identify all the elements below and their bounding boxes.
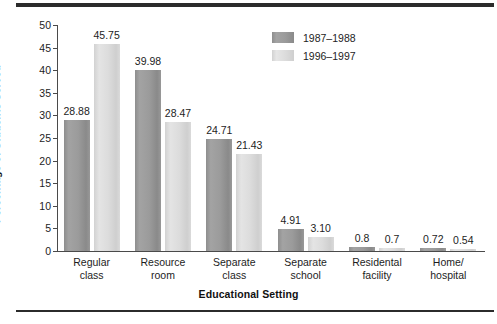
bar-value-label: 3.10 [310, 222, 330, 234]
y-tick-label: 0 [45, 245, 51, 257]
x-category-label: Resource room [127, 256, 198, 281]
y-tick-label: 40 [39, 64, 51, 76]
y-tick-label: 10 [39, 200, 51, 212]
bar-value-label: 0.54 [453, 234, 473, 246]
y-tick-mark [53, 115, 57, 116]
bar-value-label: 0.72 [423, 233, 443, 245]
x-axis-title: Educational Setting [0, 288, 497, 300]
chart-figure: Percentage of Students Served 0510152025… [0, 0, 497, 324]
x-category-label: Home/ hospital [413, 256, 484, 281]
x-category-label: Residental facility [341, 256, 412, 281]
y-tick-mark [53, 25, 57, 26]
bar: 28.88 [64, 120, 90, 251]
y-tick-mark [53, 206, 57, 207]
y-tick-label: 50 [39, 19, 51, 31]
legend-label: 1987–1988 [303, 32, 356, 44]
x-category-label: Regular class [56, 256, 127, 281]
y-tick-label: 5 [45, 222, 51, 234]
legend-item-1996-1997: 1996–1997 [272, 48, 356, 63]
bar: 21.43 [236, 154, 262, 251]
y-tick-label: 15 [39, 177, 51, 189]
bar: 0.7 [379, 248, 405, 251]
bar-value-label: 28.47 [165, 107, 191, 119]
y-tick-label: 30 [39, 109, 51, 121]
legend-label: 1996–1997 [303, 50, 356, 62]
y-tick-mark [53, 70, 57, 71]
bar: 45.75 [94, 44, 120, 251]
y-tick-mark [53, 161, 57, 162]
y-axis-title: Percentage of Students Served [0, 65, 2, 223]
y-tick-mark [53, 93, 57, 94]
y-tick-mark [53, 183, 57, 184]
bar: 28.47 [165, 122, 191, 251]
plot-area: 05101520253035404550 28.8845.7539.9828.4… [57, 25, 485, 251]
y-tick-label: 35 [39, 87, 51, 99]
bar-value-label: 24.71 [206, 124, 232, 136]
bar-value-label: 4.91 [280, 214, 300, 226]
legend-item-1987-1988: 1987–1988 [272, 30, 356, 45]
bar-value-label: 0.8 [355, 232, 370, 244]
legend-swatch-icon-1987-1988 [272, 32, 294, 43]
y-tick-label: 20 [39, 155, 51, 167]
y-tick-mark [53, 228, 57, 229]
bar: 0.8 [349, 247, 375, 251]
bar-value-label: 45.75 [94, 29, 120, 41]
bar: 3.10 [308, 237, 334, 251]
bar: 0.72 [420, 248, 446, 251]
legend-swatch-icon-1996-1997 [272, 50, 294, 61]
bar-value-label: 0.7 [385, 233, 400, 245]
bottom-rule [16, 310, 494, 312]
y-tick-mark [53, 48, 57, 49]
top-rule [16, 3, 494, 7]
x-category-label: Separate class [199, 256, 270, 281]
y-tick-label: 45 [39, 42, 51, 54]
y-tick-mark [53, 138, 57, 139]
y-tick-mark [53, 251, 57, 252]
bar-value-label: 28.88 [64, 105, 90, 117]
chart-legend: 1987–1988 1996–1997 [272, 30, 356, 66]
bar: 4.91 [278, 229, 304, 251]
bar-value-label: 39.98 [135, 55, 161, 67]
x-category-label: Separate school [270, 256, 341, 281]
bar: 24.71 [206, 139, 232, 251]
y-tick-label: 25 [39, 132, 51, 144]
x-axis-line [57, 251, 485, 252]
bar: 0.54 [450, 249, 476, 251]
bar: 39.98 [135, 70, 161, 251]
bar-value-label: 21.43 [236, 139, 262, 151]
